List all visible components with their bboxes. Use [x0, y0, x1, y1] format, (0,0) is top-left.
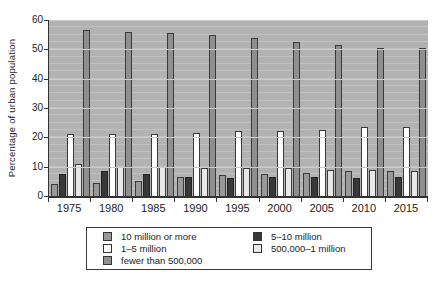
y-tick-mark	[44, 137, 48, 138]
bar-500-000-1-million-1975	[75, 164, 82, 196]
bar-500-000-1-million-2010	[369, 170, 376, 196]
x-tick-label-1980: 1980	[90, 202, 132, 214]
gridline	[49, 167, 428, 168]
legend: 10 million or more5–10 million1–5 millio…	[86, 227, 372, 270]
legend-label: fewer than 500,000	[121, 255, 202, 266]
x-tick-label-1995: 1995	[216, 202, 258, 214]
bar-5-10-million-2015	[395, 177, 402, 196]
bar-10-million-or-more-1980	[93, 183, 100, 196]
legend-swatch-icon	[253, 232, 262, 241]
gridline	[49, 108, 428, 109]
bar-10-million-or-more-2005	[303, 173, 310, 196]
x-tick-mark	[427, 198, 428, 202]
legend-label: 500,000–1 million	[271, 243, 345, 254]
x-tick-label-1975: 1975	[48, 202, 90, 214]
bar-1-5-million-1990	[193, 133, 200, 196]
bar-10-million-or-more-1995	[219, 175, 226, 196]
bar-5-10-million-1985	[143, 174, 150, 196]
legend-item-fewer-than-500-000: fewer than 500,000	[103, 255, 253, 266]
bar-fewer-than-500-000-2010	[377, 48, 384, 196]
y-tick-mark	[44, 49, 48, 50]
y-axis-title: Percentage of urban population	[6, 39, 17, 178]
bar-fewer-than-500-000-2000	[293, 42, 300, 196]
legend-item-500-000-1-million: 500,000–1 million	[253, 243, 371, 254]
y-tick-label: 10	[21, 161, 43, 173]
bar-10-million-or-more-1985	[135, 181, 142, 196]
x-tick-label-1990: 1990	[174, 202, 216, 214]
legend-swatch-icon	[103, 232, 112, 241]
bar-5-10-million-2010	[353, 178, 360, 196]
x-tick-label-2010: 2010	[343, 202, 385, 214]
gridline	[49, 49, 428, 50]
y-tick-label: 0	[21, 190, 43, 202]
plot-area	[48, 20, 428, 198]
bar-fewer-than-500-000-1975	[83, 30, 90, 196]
legend-label: 5–10 million	[271, 231, 322, 242]
legend-swatch-icon	[253, 244, 262, 253]
y-tick-label: 20	[21, 131, 43, 143]
bar-fewer-than-500-000-1995	[251, 38, 258, 196]
legend-label: 10 million or more	[121, 231, 197, 242]
y-tick-label: 40	[21, 73, 43, 85]
bar-fewer-than-500-000-2005	[335, 45, 342, 196]
bar-500-000-1-million-1980	[117, 167, 124, 196]
gridline	[49, 79, 428, 80]
gridline	[49, 137, 428, 138]
y-tick-mark	[44, 196, 48, 197]
x-tick-label-2000: 2000	[259, 202, 301, 214]
y-tick-mark	[44, 20, 48, 21]
bar-fewer-than-500-000-1980	[125, 32, 132, 196]
x-tick-label-1985: 1985	[132, 202, 174, 214]
bar-10-million-or-more-2000	[261, 174, 268, 196]
y-tick-mark	[44, 79, 48, 80]
legend-item-1-5-million: 1–5 million	[103, 243, 253, 254]
bar-5-10-million-1975	[59, 174, 66, 196]
bar-10-million-or-more-2015	[387, 171, 394, 196]
bar-1-5-million-1995	[235, 131, 242, 196]
bar-500-000-1-million-1985	[159, 167, 166, 196]
x-tick-label-2015: 2015	[385, 202, 427, 214]
legend-item-10-million-or-more: 10 million or more	[103, 231, 253, 242]
bar-5-10-million-2005	[311, 177, 318, 196]
bar-500-000-1-million-2005	[327, 170, 334, 196]
bar-1-5-million-2005	[319, 130, 326, 196]
bar-500-000-1-million-1990	[201, 168, 208, 196]
bar-1-5-million-1985	[151, 134, 158, 196]
gridline	[49, 20, 428, 21]
bar-5-10-million-1980	[101, 171, 108, 196]
bar-1-5-million-2000	[277, 131, 284, 196]
bar-5-10-million-1990	[185, 177, 192, 196]
bar-5-10-million-1995	[227, 178, 234, 196]
y-tick-label: 30	[21, 102, 43, 114]
bar-fewer-than-500-000-1990	[209, 35, 216, 196]
legend-swatch-icon	[103, 256, 112, 265]
x-tick-label-2005: 2005	[301, 202, 343, 214]
bar-10-million-or-more-1990	[177, 177, 184, 196]
bar-1-5-million-1975	[67, 134, 74, 196]
legend-label: 1–5 million	[121, 243, 166, 254]
bar-500-000-1-million-2015	[411, 171, 418, 196]
bar-5-10-million-2000	[269, 177, 276, 196]
y-tick-mark	[44, 167, 48, 168]
bar-chart: Percentage of urban population 010203040…	[0, 0, 436, 282]
y-tick-label: 60	[21, 14, 43, 26]
bar-1-5-million-1980	[109, 134, 116, 196]
legend-item-5-10-million: 5–10 million	[253, 231, 371, 242]
y-tick-mark	[44, 108, 48, 109]
y-tick-label: 50	[21, 43, 43, 55]
bar-500-000-1-million-1995	[243, 168, 250, 196]
bar-fewer-than-500-000-1985	[167, 33, 174, 196]
bar-10-million-or-more-1975	[51, 184, 58, 196]
x-axis-labels: 197519801985199019952000200520102015	[48, 202, 427, 214]
bar-fewer-than-500-000-2015	[419, 48, 426, 196]
legend-swatch-icon	[103, 244, 112, 253]
bar-10-million-or-more-2010	[345, 171, 352, 196]
bar-500-000-1-million-2000	[285, 168, 292, 196]
